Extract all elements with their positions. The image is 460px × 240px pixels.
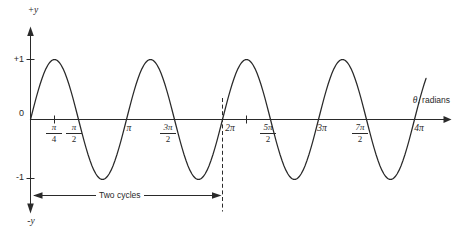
x-axis-arrowhead (444, 116, 452, 123)
x-tick-label-3pi-over-2: 3π 2 (160, 122, 176, 145)
fraction-numerator: 3π (160, 122, 176, 134)
y-tick-label-0: 0 (12, 108, 24, 118)
fraction-numerator: 5π (260, 122, 276, 134)
x-tick-label-7pi-over-2: 7π 2 (352, 122, 368, 145)
fraction-denominator: 2 (260, 134, 276, 145)
fraction-numerator: 7π (352, 122, 368, 134)
fraction-denominator: 4 (46, 134, 62, 145)
two-cycles-left-arrowhead (33, 192, 43, 198)
x-tick-label-2pi: 2π (219, 123, 241, 134)
fraction-denominator: 2 (66, 134, 82, 145)
plot-canvas (0, 0, 460, 240)
x-tick-label-4pi: 4π (408, 123, 430, 134)
y-axis-bottom-arrowhead (27, 204, 34, 214)
x-tick-label-pi-over-2: π 2 (66, 122, 82, 145)
y-axis-negative-label: -y (20, 216, 42, 227)
y-tick-label-minus-1: -1 (6, 172, 24, 182)
x-axis-title: θ, radians (398, 95, 450, 106)
x-tick-label-pi: π (118, 123, 140, 134)
y-tick-label-plus-1: +1 (6, 54, 24, 64)
fraction-numerator: π (46, 122, 62, 134)
fraction-numerator: π (66, 122, 82, 134)
x-tick-label-3pi: 3π (311, 123, 333, 134)
x-tick-label-pi-over-4: π 4 (46, 122, 62, 145)
y-axis-positive-label: +y (22, 5, 44, 16)
fraction-denominator: 2 (352, 134, 368, 145)
x-tick-label-5pi-over-2: 5π 2 (260, 122, 276, 145)
y-axis-top-arrowhead (27, 27, 34, 37)
two-cycles-right-arrowhead (212, 192, 222, 198)
two-cycles-label: Two cycles (96, 190, 144, 201)
x-axis-title-text: , radians (417, 95, 450, 105)
sine-wave-figure: +y -y θ, radians +1 0 -1 π 4 π 2 π 3π 2 … (0, 0, 460, 240)
fraction-denominator: 2 (160, 134, 176, 145)
